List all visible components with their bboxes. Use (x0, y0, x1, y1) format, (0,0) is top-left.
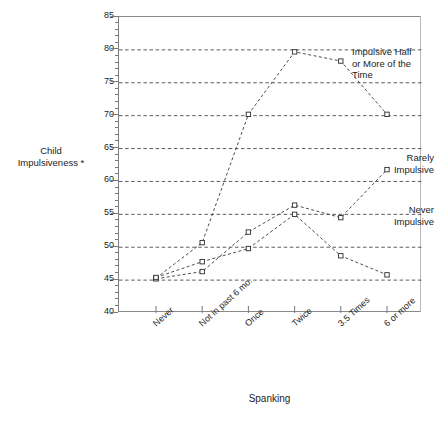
series-annotation-rarely-impulsive: Rarely Impulsive (344, 152, 434, 175)
x-axis-tick-label: Once (243, 307, 266, 329)
x-axis-tick-label: 6 or more (382, 295, 417, 328)
x-axis-tick-label: 3.5 Times (336, 295, 372, 329)
series-annotation-never-impulsive: Never Impulsive (344, 204, 434, 227)
series-annotation-impulsive-half-or-more: Impulsive Half or More of the Time (352, 46, 436, 81)
x-axis-tick-label: Twice (290, 306, 314, 329)
x-axis-tick-label: Never (151, 305, 176, 329)
x-axis-title: Spanking (118, 393, 421, 404)
figure: 40455055606570758085 Child Impulsiveness… (0, 0, 437, 428)
